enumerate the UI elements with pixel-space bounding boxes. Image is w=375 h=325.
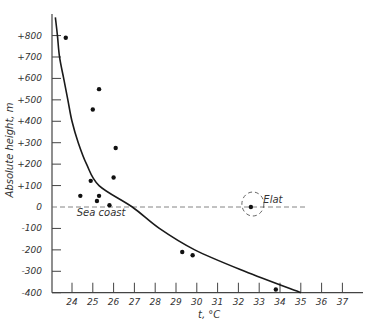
ticks: 2425262728293031323334353637-400-300-200… (17, 31, 348, 307)
x-tick-label: 36 (316, 297, 328, 307)
y-tick-label: +700 (17, 52, 42, 62)
data-point (111, 175, 115, 179)
x-tick-label: 26 (108, 297, 120, 307)
y-tick-label: +300 (17, 138, 42, 148)
data-point (274, 287, 278, 291)
x-tick-label: 32 (233, 297, 245, 307)
x-tick-label: 35 (295, 297, 307, 307)
x-axis-label: t, °C (198, 309, 220, 320)
x-tick-label: 34 (274, 297, 286, 307)
y-tick-label: -300 (22, 266, 43, 276)
x-tick-label: 27 (129, 297, 141, 307)
data-point (113, 146, 117, 150)
x-tick-label: 37 (337, 297, 349, 307)
data-point (64, 36, 68, 40)
y-tick-label: 0 (36, 202, 42, 212)
x-tick-label: 28 (149, 297, 161, 307)
plot-area: 2425262728293031323334353637-400-300-200… (0, 0, 375, 325)
y-tick-label: +600 (17, 73, 42, 83)
y-tick-label: +400 (17, 116, 42, 126)
data-point (180, 250, 184, 254)
data-point (97, 194, 101, 198)
y-tick-label: -400 (22, 288, 43, 298)
x-tick-label: 31 (212, 297, 223, 307)
x-tick-label: 33 (253, 297, 265, 307)
data-point (89, 179, 93, 183)
chart: 2425262728293031323334353637-400-300-200… (0, 0, 375, 325)
y-tick-label: +500 (17, 95, 42, 105)
data-point (190, 253, 194, 257)
x-tick-label: 30 (191, 297, 203, 307)
x-tick-label: 24 (66, 297, 78, 307)
data-points (64, 36, 278, 292)
data-point (78, 194, 82, 198)
data-point (95, 199, 99, 203)
y-tick-label: +100 (17, 181, 42, 191)
x-tick-label: 29 (170, 297, 182, 307)
y-axis-label: Absolute height, m (4, 102, 15, 198)
elat-highlight-circle (242, 192, 264, 216)
fitted-curve (55, 17, 300, 292)
y-tick-label: +800 (17, 31, 42, 41)
data-point (97, 87, 101, 91)
data-point (249, 205, 253, 209)
axes (52, 14, 363, 293)
x-tick-label: 25 (87, 297, 99, 307)
elat-label: Elat (263, 194, 283, 205)
data-point (91, 107, 95, 111)
y-tick-label: -200 (22, 245, 43, 255)
sea-coast-label: Sea coast (77, 207, 127, 218)
y-tick-label: -100 (22, 223, 43, 233)
y-tick-label: +200 (17, 159, 42, 169)
